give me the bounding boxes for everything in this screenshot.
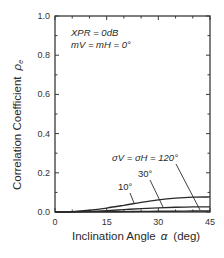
x-axis-title: Inclination Angleα(deg) <box>72 230 200 242</box>
x-tick-label: 45 <box>205 217 215 227</box>
y-tick-label: 0.6 <box>37 89 50 99</box>
sigma-30-label: 30° <box>138 168 153 179</box>
leader-30 <box>150 180 163 207</box>
y-tick-label: 0.4 <box>37 129 50 139</box>
leader-120 <box>176 164 200 210</box>
y-tick-label: 1.0 <box>37 11 50 21</box>
x-tick-label: 15 <box>102 217 112 227</box>
y-axis-title: Correlation Coefficientρe <box>11 60 24 190</box>
leader-10 <box>130 193 134 203</box>
y-tick-label: 0.0 <box>37 207 50 217</box>
xpr-annotation: XPR = 0dB <box>70 27 119 38</box>
sigma-120-label: σV = σH = 120° <box>112 152 178 163</box>
x-tick-label: 0 <box>52 217 57 227</box>
m-annotation: mV = mH = 0° <box>71 39 131 50</box>
x-tick-label: 30 <box>153 217 163 227</box>
correlation-chart: 0.00.20.40.60.81.00153045 XPR = 0dB mV =… <box>0 0 224 258</box>
y-tick-label: 0.8 <box>37 50 50 60</box>
sigma-10-label: 10° <box>118 181 133 192</box>
y-tick-label: 0.2 <box>37 168 50 178</box>
